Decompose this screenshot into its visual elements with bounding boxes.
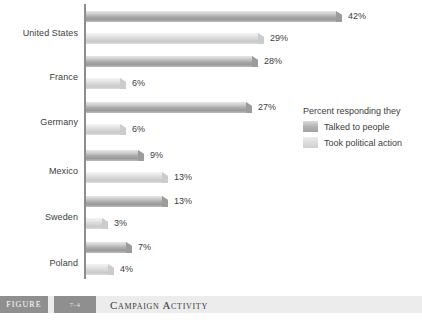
bar-cap: [252, 56, 258, 67]
legend-item-talked-to-people: Talked to people: [303, 121, 421, 132]
bar-germany-action: [86, 124, 126, 135]
legend-swatch-icon-series-1: [303, 121, 318, 132]
legend-swatch-icon-series-2: [303, 137, 318, 148]
bar-france-talked: [86, 56, 258, 67]
bar-cap: [246, 102, 252, 113]
bar-body: [86, 78, 121, 89]
value-label-germany-action: 6%: [132, 124, 145, 134]
bar-cap: [120, 78, 126, 89]
figure-caption: FIGURE 7-4 Campaign Activity: [0, 296, 422, 313]
bar-united-states-action: [86, 33, 264, 44]
bar-poland-talked: [86, 242, 132, 253]
bar-body: [86, 264, 109, 275]
figure-title: Campaign Activity: [110, 299, 208, 311]
category-label-poland: Poland: [0, 258, 78, 268]
legend-title: Percent responding they: [303, 106, 421, 116]
value-label-mexico-action: 13%: [174, 172, 192, 182]
bar-united-states-talked: [86, 11, 342, 22]
bar-body: [86, 124, 121, 135]
category-label-mexico: Mexico: [0, 166, 78, 176]
category-label-sweden: Sweden: [0, 212, 78, 222]
bar-chart: United States France Germany Mexico Swed…: [0, 0, 422, 290]
figure-number-block: 7-4: [54, 296, 96, 313]
category-label-france: France: [0, 72, 78, 82]
legend-label-series-1: Talked to people: [324, 122, 390, 132]
value-label-sweden-action: 3%: [114, 218, 127, 228]
value-label-poland-talked: 7%: [138, 242, 151, 252]
bar-cap: [102, 218, 108, 229]
bar-body: [86, 242, 127, 253]
bar-body: [86, 56, 253, 67]
bar-sweden-talked: [86, 196, 168, 207]
category-axis-line: [84, 4, 86, 279]
figure-word-block: FIGURE: [0, 296, 48, 313]
value-label-france-talked: 28%: [264, 56, 282, 66]
bar-cap: [108, 264, 114, 275]
bar-cap: [138, 150, 144, 161]
value-label-poland-action: 4%: [120, 264, 133, 274]
bar-body: [86, 102, 247, 113]
value-label-france-action: 6%: [132, 78, 145, 88]
bar-cap: [162, 196, 168, 207]
category-label-united-states: United States: [0, 28, 78, 38]
value-label-united-states-talked: 42%: [348, 11, 366, 21]
bar-poland-action: [86, 264, 114, 275]
bar-body: [86, 172, 163, 183]
value-label-united-states-action: 29%: [270, 33, 288, 43]
bar-mexico-talked: [86, 150, 144, 161]
value-label-mexico-talked: 9%: [150, 150, 163, 160]
bar-cap: [120, 124, 126, 135]
legend-item-took-political-action: Took political action: [303, 137, 421, 148]
value-label-sweden-talked: 13%: [174, 196, 192, 206]
bar-france-action: [86, 78, 126, 89]
legend-label-series-2: Took political action: [324, 138, 402, 148]
bar-cap: [258, 33, 264, 44]
bar-germany-talked: [86, 102, 252, 113]
bar-cap: [162, 172, 168, 183]
bar-body: [86, 196, 163, 207]
category-label-germany: Germany: [0, 117, 78, 127]
bar-cap: [126, 242, 132, 253]
bar-cap: [336, 11, 342, 22]
bar-body: [86, 33, 259, 44]
bar-body: [86, 218, 103, 229]
value-label-germany-talked: 27%: [258, 102, 276, 112]
bar-mexico-action: [86, 172, 168, 183]
chart-legend: Percent responding they Talked to people…: [303, 106, 421, 153]
bar-body: [86, 150, 139, 161]
bar-body: [86, 11, 337, 22]
bar-sweden-action: [86, 218, 108, 229]
